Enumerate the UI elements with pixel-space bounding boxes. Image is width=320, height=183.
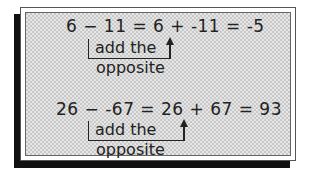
arrow-shaft-2 [183, 126, 185, 140]
label-opposite-1: opposite [96, 58, 165, 77]
arrow-shaft-1 [169, 44, 171, 58]
equation-2: 26 − -67 = 26 + 67 = 93 [56, 99, 282, 119]
arrow-up-icon [180, 119, 188, 127]
label-add-the-1: add the [95, 38, 156, 57]
label-opposite-2: opposite [96, 140, 165, 159]
arrow-up-icon [166, 37, 174, 45]
equation-1: 6 − 11 = 6 + -11 = -5 [66, 16, 265, 36]
label-add-the-2: add the [95, 120, 156, 139]
